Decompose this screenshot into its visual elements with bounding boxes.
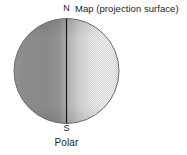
polar-projection-figure: N Map (projection surface) S Polar xyxy=(0,0,187,155)
projection-name-label: Polar xyxy=(0,138,133,148)
map-surface-label: Map (projection surface) xyxy=(75,4,179,14)
south-pole-label: S xyxy=(0,124,133,133)
